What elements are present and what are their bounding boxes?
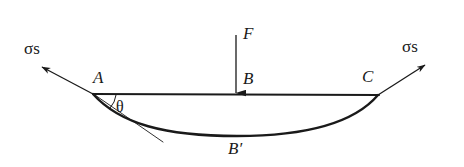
tension-label-right-text: σs bbox=[402, 37, 418, 56]
arrow-up-right-icon bbox=[378, 65, 425, 95]
figure-canvas: σs σs A B C B′ F θ bbox=[0, 0, 464, 167]
arrow-up-left-icon bbox=[42, 67, 93, 94]
point-label-c: C bbox=[362, 68, 373, 85]
tension-label-left-text: σs bbox=[24, 39, 40, 58]
point-label-a: A bbox=[93, 69, 103, 86]
point-label-b-prime: B′ bbox=[228, 140, 242, 157]
tension-label-left: σs bbox=[24, 40, 40, 57]
tension-label-right: σs bbox=[402, 38, 418, 55]
point-label-b: B bbox=[243, 70, 253, 87]
angle-label-theta: θ bbox=[116, 99, 124, 115]
force-label-f: F bbox=[243, 25, 253, 42]
deflected-curve-icon bbox=[93, 94, 378, 136]
horizontal-chord-icon bbox=[93, 94, 379, 95]
tangent-line-icon bbox=[95, 95, 163, 142]
